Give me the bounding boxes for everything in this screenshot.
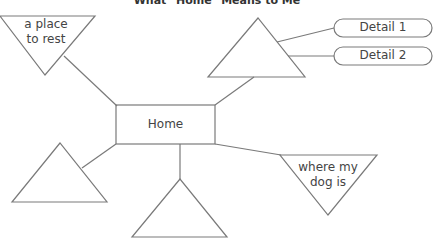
- bottom-right-line-2: dog is: [296, 175, 360, 190]
- detail-2-label: Detail 2: [334, 48, 432, 63]
- bottom-right-label: where my dog is: [296, 160, 360, 190]
- bottom-right-line-1: where my: [296, 160, 360, 175]
- connector-bottom-left: [82, 144, 116, 168]
- web-diagram: What "Home" Means to Me a place to rest …: [0, 0, 434, 238]
- center-label: Home: [116, 117, 215, 132]
- top-left-line-2: to rest: [15, 32, 77, 47]
- connector-bottom-right: [215, 144, 281, 155]
- connector-detail-1: [277, 28, 334, 42]
- top-left-label: a place to rest: [15, 17, 77, 47]
- top-left-line-1: a place: [15, 17, 77, 32]
- triangle-top-right: [208, 18, 305, 77]
- triangle-bottom-left: [12, 143, 107, 202]
- connector-top-left: [64, 56, 117, 106]
- connector-top-right: [215, 77, 254, 105]
- detail-1-label: Detail 1: [334, 20, 432, 35]
- triangle-bottom-center: [132, 179, 227, 237]
- diagram-title: What "Home" Means to Me: [0, 0, 434, 7]
